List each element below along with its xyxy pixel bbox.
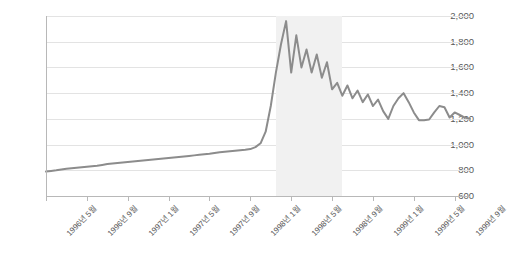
- x-tick-label-9: 1999년 5월: [431, 203, 466, 238]
- y-axis-line: [46, 16, 47, 197]
- x-tick-5: [250, 196, 251, 201]
- series-line: [46, 16, 470, 196]
- x-tick-2: [128, 196, 129, 201]
- x-tick-label-0: 1996년 5월: [63, 203, 98, 238]
- x-tick-1: [87, 196, 88, 201]
- x-tick-label-1: 1996년 9월: [104, 203, 139, 238]
- x-tick-label-2: 1997년 1월: [145, 203, 180, 238]
- x-tick-label-7: 1998년 9월: [349, 203, 384, 238]
- x-tick-9: [414, 196, 415, 201]
- x-tick-label-3: 1997년 5월: [186, 203, 221, 238]
- x-tick-7: [332, 196, 333, 201]
- x-tick-10: [455, 196, 456, 201]
- x-tick-0: [46, 196, 47, 201]
- x-tick-3: [169, 196, 170, 201]
- x-tick-label-5: 1998년 1월: [268, 203, 303, 238]
- x-tick-label-6: 1998년 5월: [308, 203, 343, 238]
- x-tick-4: [209, 196, 210, 201]
- x-tick-label-10: 1999년 9월: [472, 203, 507, 238]
- x-tick-label-8: 1999년 1월: [390, 203, 425, 238]
- x-tick-6: [291, 196, 292, 201]
- series-polyline: [46, 21, 470, 171]
- x-tick-label-4: 1997년 9월: [227, 203, 262, 238]
- x-axis-line: [46, 196, 470, 197]
- x-tick-8: [373, 196, 374, 201]
- plot-area: [46, 16, 470, 196]
